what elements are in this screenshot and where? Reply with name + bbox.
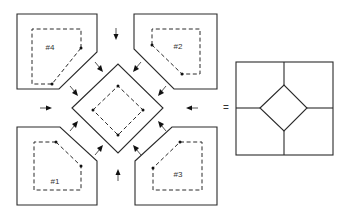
piece-2: #2: [134, 14, 217, 89]
equals-sign: =: [223, 102, 229, 113]
arrow-diag-icon: [95, 62, 103, 72]
arrow-diag-icon: [70, 86, 78, 96]
piece-4-label: #4: [46, 43, 55, 52]
assembly-diagram: #4 #2 #1 #3: [0, 0, 348, 220]
piece-1: #1: [17, 127, 97, 205]
piece-4: #4: [17, 14, 97, 89]
arrow-diag-icon: [158, 86, 166, 96]
arrow-diag-icon: [95, 145, 103, 155]
piece-3-label: #3: [174, 170, 183, 179]
piece-1-label: #1: [51, 177, 60, 186]
arrow-diag-icon: [158, 121, 166, 131]
arrow-up-icon: [116, 169, 121, 181]
arrow-diag-icon: [70, 121, 78, 131]
result-square: [236, 62, 333, 155]
arrow-diag-icon: [133, 62, 141, 72]
piece-2-label: #2: [174, 42, 183, 51]
arrow-down-icon: [114, 28, 119, 40]
piece-3: #3: [135, 127, 217, 205]
arrow-diag-icon: [133, 145, 141, 155]
arrow-right-icon: [40, 106, 52, 111]
center-diamond: [72, 64, 163, 153]
arrow-left-icon: [186, 106, 198, 111]
